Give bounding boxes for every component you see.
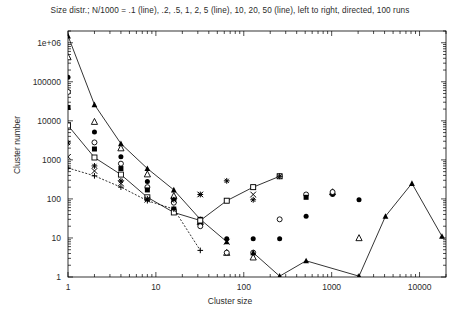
- marker-open-square: [224, 198, 229, 203]
- series-line-5: [68, 125, 280, 220]
- marker-filled-circle: [118, 154, 123, 159]
- plot-frame: [68, 31, 446, 277]
- marker-open-square: [251, 185, 256, 190]
- marker-filled-circle: [357, 197, 362, 202]
- marker-filled-square: [92, 146, 97, 151]
- marker-filled-circle: [277, 236, 282, 241]
- plot-area: 1101001000100001101001000100001000001e+0…: [0, 0, 460, 315]
- series-line-50: [68, 168, 200, 250]
- series-50-line: [250, 180, 445, 278]
- x-axis-ticks: [68, 31, 446, 277]
- x-tick-label: 100: [237, 282, 251, 292]
- x-tick-label: 1000: [322, 282, 341, 292]
- marker-open-circle: [277, 217, 282, 222]
- marker-filled-triangle: [409, 180, 415, 186]
- marker-filled-circle: [66, 75, 71, 80]
- series-.5: [66, 75, 362, 241]
- y-tick-label: 100000: [33, 77, 62, 87]
- marker-filled-square: [145, 187, 150, 192]
- marker-open-square: [198, 218, 203, 223]
- marker-open-square: [118, 172, 123, 177]
- marker-open-square: [92, 155, 97, 160]
- marker-open-circle: [224, 250, 229, 255]
- marker-filled-circle: [92, 129, 97, 134]
- marker-filled-circle: [145, 179, 150, 184]
- marker-filled-triangle: [439, 233, 445, 239]
- x-tick-label: 10000: [408, 282, 432, 292]
- chart-figure: Size distr.; N/1000 = .1 (line), .2, .5,…: [0, 0, 460, 315]
- series-.1: [65, 33, 230, 244]
- marker-open-circle: [118, 161, 123, 166]
- marker-filled-circle: [251, 236, 256, 241]
- marker-open-square: [66, 123, 71, 128]
- marker-filled-triangle: [92, 102, 98, 108]
- x-tick-label: 1: [66, 282, 71, 292]
- marker-filled-circle: [304, 214, 309, 219]
- marker-open-circle: [66, 89, 71, 94]
- y-tick-label: 100: [47, 194, 61, 204]
- y-tick-label: 1000: [42, 155, 61, 165]
- x-axis-label: Cluster size: [0, 296, 460, 306]
- x-tick-label: 10: [151, 282, 161, 292]
- y-tick-label: 10000: [37, 116, 61, 126]
- marker-filled-square: [118, 166, 123, 171]
- series-line-.1: [68, 36, 227, 242]
- y-axis-ticks: [68, 31, 446, 277]
- series-layer: [65, 33, 445, 279]
- marker-filled-square: [66, 105, 71, 110]
- series-50: [65, 165, 203, 253]
- marker-open-triangle: [356, 235, 362, 241]
- marker-open-circle: [198, 224, 203, 229]
- series-1: [66, 89, 336, 255]
- marker-open-triangle: [144, 171, 150, 177]
- marker-filled-triangle: [65, 33, 71, 39]
- marker-open-triangle: [91, 118, 97, 124]
- y-tick-label: 10: [52, 233, 62, 243]
- series-line-50-line: [253, 183, 442, 276]
- marker-open-circle: [330, 190, 335, 195]
- y-tick-label: 1: [56, 272, 61, 282]
- y-axis-label: Cluster number: [12, 90, 22, 200]
- chart-title: Size distr.; N/1000 = .1 (line), .2, .5,…: [0, 6, 460, 15]
- marker-open-circle: [92, 140, 97, 145]
- y-tick-label: 1e+06: [37, 38, 61, 48]
- marker-filled-triangle: [303, 258, 309, 264]
- marker-filled-square: [304, 195, 309, 200]
- series-.2: [65, 54, 362, 260]
